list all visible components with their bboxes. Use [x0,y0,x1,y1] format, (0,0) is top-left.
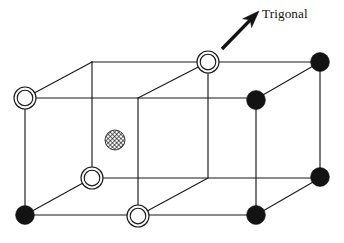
atom-filled [311,53,330,72]
atom-open [127,205,149,227]
open-atom-inner-ring-icon [130,208,146,224]
atom-open [197,51,219,73]
open-atom-inner-ring-icon [17,90,33,106]
interstitial-atom-icon [105,130,125,150]
open-atom-inner-ring-icon [200,54,216,70]
filled-atom-icon [16,206,35,225]
filled-atom-icon [247,206,266,225]
lattice-figure: Trigonal [0,0,344,243]
atom-filled [247,91,266,110]
lattice-atoms [14,51,329,227]
atom-filled [311,168,330,187]
open-atom-inner-ring-icon [84,170,100,186]
arrow-shaft [222,20,251,49]
filled-atom-icon [247,91,266,110]
atom-hatched [105,130,125,150]
atom-open [81,167,103,189]
atom-filled [16,206,35,225]
filled-atom-icon [311,168,330,187]
trigonal-axis-label: Trigonal [262,6,308,21]
lattice-edge [138,178,208,216]
atom-open [14,87,36,109]
lattice-edges [25,62,320,216]
trigonal-axis-arrow [222,11,259,49]
lattice-edge [138,62,208,98]
lattice-edge [256,62,320,99]
lattice-canvas [0,0,344,243]
lattice-edge [256,178,320,215]
atom-filled [247,206,266,225]
filled-atom-icon [311,53,330,72]
